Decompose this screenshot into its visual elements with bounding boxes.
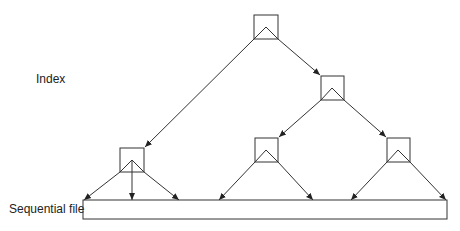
edge-left-to-file-3 [144, 172, 179, 200]
edge-level2-to-right [344, 100, 386, 137]
edge-level2-to-middle [279, 100, 321, 137]
edge-root-to-left [145, 39, 254, 147]
edge-right-to-file-1 [351, 162, 387, 200]
edge-root-to-level2 [278, 39, 320, 75]
root-index-node [254, 15, 278, 39]
edge-middle-to-file-2 [278, 162, 313, 200]
sequential-file-box [83, 200, 447, 219]
index-tree-diagram [0, 0, 460, 231]
leaf-index-node-middle [255, 138, 278, 162]
edge-middle-to-file-1 [219, 162, 255, 200]
edge-left-to-file-1 [84, 172, 120, 200]
level2-index-node [321, 76, 344, 100]
edge-right-to-file-2 [410, 162, 446, 200]
leaf-index-node-right [387, 138, 410, 162]
